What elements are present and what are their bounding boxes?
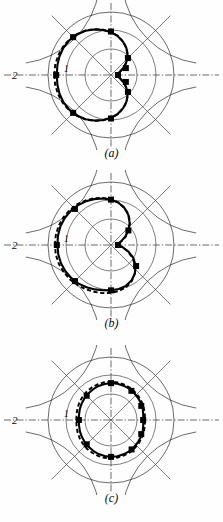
panel-b: 21 (0, 170, 223, 320)
data-marker (84, 393, 90, 399)
polar-grid (4, 345, 219, 495)
data-marker (72, 206, 78, 212)
data-marker (108, 115, 114, 121)
data-marker (76, 417, 82, 423)
radial-label-inner: 1 (64, 64, 69, 74)
radial-grid-line (52, 75, 111, 134)
radial-label-inner: 1 (64, 234, 69, 244)
caption-b: (b) (0, 316, 223, 331)
data-marker (108, 454, 114, 460)
caption-c: (c) (0, 491, 223, 506)
outer-grid-arc (123, 432, 196, 495)
polar-plot-c: 21 (0, 345, 223, 495)
radial-grid-line (111, 16, 170, 75)
data-marker (125, 227, 131, 233)
outer-grid-arc (123, 170, 196, 233)
data-marker (128, 388, 134, 394)
data-marker (84, 441, 90, 447)
radial-label-inner: 1 (64, 409, 69, 419)
polar-grid (4, 0, 219, 150)
data-marker (108, 29, 114, 35)
polar-pattern-figure: 21 (a) 21 (b) 21 (c) (0, 0, 223, 522)
polar-grid (4, 170, 219, 320)
radial-grid-line (111, 186, 170, 245)
data-marker (138, 431, 144, 437)
radial-grid-line (52, 245, 111, 304)
solid-curve (57, 198, 135, 290)
data-marker (125, 55, 131, 61)
data-marker (123, 65, 129, 71)
data-marker (70, 110, 76, 116)
outer-grid-arc (26, 0, 99, 63)
radial-label-outer: 2 (12, 414, 18, 426)
data-marker (108, 380, 114, 386)
data-marker (54, 242, 60, 248)
data-marker (108, 287, 114, 293)
radial-grid-line (52, 186, 111, 245)
polar-plot-b: 21 (0, 170, 223, 320)
radial-grid-line (52, 361, 111, 420)
radial-grid-line (111, 361, 170, 420)
data-marker (129, 446, 135, 452)
radial-label-outer: 2 (12, 239, 18, 251)
outer-grid-arc (123, 345, 196, 408)
data-marker (53, 72, 59, 78)
outer-grid-arc (123, 0, 196, 63)
radial-grid-line (111, 420, 170, 479)
radial-grid-line (52, 420, 111, 479)
dashed-curve (55, 198, 135, 293)
data-marker (125, 89, 131, 95)
data-marker (115, 72, 121, 78)
radial-grid-line (52, 16, 111, 75)
data-marker (70, 34, 76, 40)
panel-c: 21 (0, 345, 223, 495)
outer-grid-arc (26, 87, 99, 150)
polar-plot-a: 21 (0, 0, 223, 150)
panel-a: 21 (0, 0, 223, 150)
outer-grid-arc (123, 87, 196, 150)
data-marker (123, 79, 129, 85)
caption-a: (a) (0, 146, 223, 161)
data-marker (140, 417, 146, 423)
radial-grid-line (111, 245, 170, 304)
data-marker (133, 263, 139, 269)
radial-grid-line (111, 75, 170, 134)
data-marker (138, 403, 144, 409)
radial-label-outer: 2 (12, 69, 18, 81)
data-marker (115, 242, 121, 248)
data-marker (108, 197, 114, 203)
data-marker (72, 278, 78, 284)
